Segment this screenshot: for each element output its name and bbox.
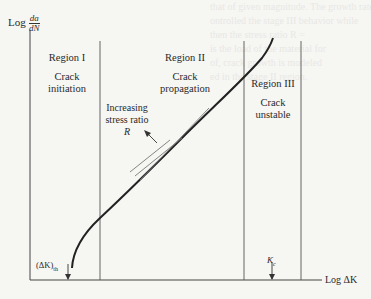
region-1-label: Region I Crack initiation — [42, 52, 92, 95]
region-3-label: Region III Crack unstable — [246, 78, 300, 121]
threshold-sub: th — [53, 266, 58, 272]
annotation-line: Increasing — [102, 102, 152, 114]
region-desc: unstable — [246, 109, 300, 121]
region-title: Region I — [42, 52, 92, 64]
y-axis-log: Log — [8, 16, 26, 28]
x-axis-label: Log ΔK — [325, 274, 357, 286]
annotation-line: stress ratio — [102, 114, 152, 126]
region-2-label: Region II Crack propagation — [150, 52, 220, 95]
y-axis-fraction: dadN — [29, 14, 40, 33]
region-title: Region III — [246, 78, 300, 90]
region-title: Region II — [150, 52, 220, 64]
kc-label: Kc — [267, 254, 276, 270]
stress-ratio-annotation: Increasing stress ratio R — [102, 102, 152, 138]
diagram-canvas — [0, 0, 371, 299]
region-desc: initiation — [42, 83, 92, 95]
threshold-main: (ΔK) — [36, 260, 53, 270]
kc-sub: c — [273, 261, 276, 267]
y-axis-label: LogdadN — [8, 14, 40, 33]
fraction-denominator: dN — [29, 24, 40, 33]
region-desc: Crack — [42, 71, 92, 83]
region-desc: Crack — [150, 71, 220, 83]
threshold-label: (ΔK)th — [36, 259, 58, 275]
region-desc: propagation — [150, 83, 220, 95]
region-desc: Crack — [246, 97, 300, 109]
annotation-line: R — [102, 126, 152, 138]
